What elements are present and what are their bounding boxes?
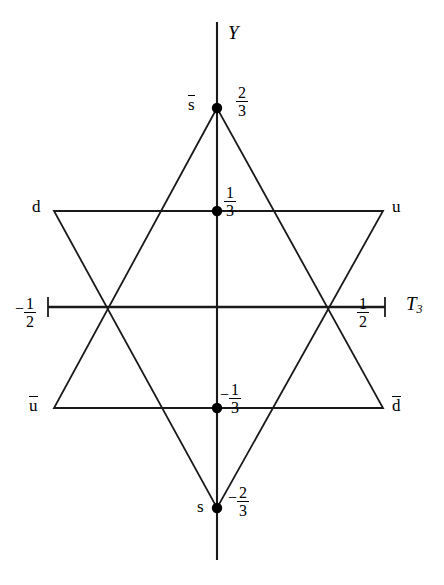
vertex-dot-s-bar — [212, 103, 222, 113]
minus-sign-two-thirds: − — [228, 490, 237, 506]
quark-triangle — [54, 211, 383, 508]
value-y-two-thirds: 2 3 — [236, 84, 248, 120]
t3-axis-label: T3 — [406, 294, 423, 315]
u-bar-overbar: u — [29, 396, 38, 414]
fraction-one-half: 1 2 — [357, 295, 369, 331]
point-dot-y-one-third — [212, 206, 222, 216]
label-d-bar: d — [392, 396, 401, 414]
label-d: d — [32, 198, 41, 215]
s-bar-overbar: s — [188, 95, 195, 113]
value-y-minus-two-thirds: −23 — [228, 484, 249, 520]
tick-label-minus-half: −12 — [15, 295, 36, 331]
label-s-bar: s — [188, 95, 195, 113]
fraction-one-third: 1 3 — [224, 184, 236, 220]
y-axis-label: Y — [228, 23, 239, 42]
antiquark-triangle — [54, 108, 383, 408]
label-s: s — [197, 498, 204, 515]
d-bar-overbar: d — [392, 396, 401, 414]
label-u: u — [392, 198, 401, 215]
minus-sign-one-third: − — [220, 387, 229, 403]
value-y-one-third: 1 3 — [224, 184, 236, 220]
diagram-canvas — [0, 0, 444, 585]
weight-diagram-figure: Y T3 −12 1 2 s d u u d s 2 3 — [0, 0, 444, 585]
vertex-dot-s — [212, 503, 222, 513]
fraction-two-thirds: 2 3 — [236, 84, 248, 120]
fraction-two-thirds-negative: 23 — [237, 484, 249, 520]
value-y-minus-one-third: −13 — [220, 381, 241, 417]
label-u-bar: u — [29, 396, 38, 414]
minus-sign-half: − — [15, 301, 24, 317]
fraction-one-half-negative: 12 — [24, 295, 36, 331]
fraction-one-third-negative: 13 — [229, 381, 241, 417]
tick-label-plus-half: 1 2 — [357, 295, 369, 331]
